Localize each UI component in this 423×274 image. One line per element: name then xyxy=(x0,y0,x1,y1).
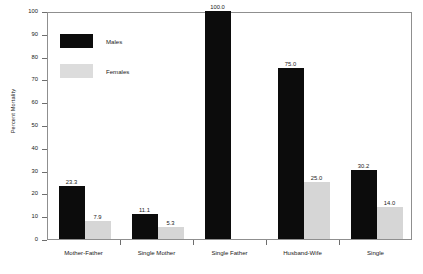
bar-females xyxy=(85,221,111,239)
y-axis-tick-label: 100 xyxy=(28,8,38,14)
bar-males xyxy=(278,68,304,239)
x-axis-category-label: Single xyxy=(339,249,412,256)
y-axis-tick-label: 50 xyxy=(32,122,38,128)
x-axis-tick-mark xyxy=(266,240,267,245)
bar-value-label: 11.1 xyxy=(126,207,164,213)
bar-females xyxy=(377,207,403,239)
legend-label: Males xyxy=(106,38,122,45)
bar-value-label: 23.3 xyxy=(53,179,91,185)
y-axis-tick-label: 60 xyxy=(32,99,38,105)
x-axis-category-label: Single Father xyxy=(193,249,266,256)
x-axis-tick-mark xyxy=(120,240,121,245)
x-axis-category-label: Single Mother xyxy=(120,249,193,256)
bar-males xyxy=(132,214,158,239)
y-axis-tick-label: 70 xyxy=(32,76,38,82)
bar-males xyxy=(59,186,85,239)
bar-value-label: 14.0 xyxy=(371,200,409,206)
bar-chart: Percent Mortality 0102030405060708090100… xyxy=(0,0,423,274)
bar-females xyxy=(158,227,184,239)
bar-value-label: 100.0 xyxy=(199,4,237,10)
y-axis-tick-label: 20 xyxy=(32,190,38,196)
x-axis-tick-mark xyxy=(339,240,340,245)
legend-swatch-males xyxy=(60,34,93,48)
legend-label: Females xyxy=(106,68,129,75)
bar-value-label: 25.0 xyxy=(298,175,336,181)
y-axis-title: Percent Mortality xyxy=(10,61,16,161)
y-axis-tick-label: 40 xyxy=(32,145,38,151)
bar-value-label: 75.0 xyxy=(272,61,310,67)
x-axis-category-label: Mother-Father xyxy=(47,249,120,256)
bar-males xyxy=(205,11,231,239)
y-axis-tick-label: 90 xyxy=(32,31,38,37)
bar-value-label: 5.3 xyxy=(152,220,190,226)
y-axis-tick-label: 30 xyxy=(32,168,38,174)
y-axis-tick-label: 10 xyxy=(32,213,38,219)
y-axis-tick-label: 80 xyxy=(32,54,38,60)
bar-value-label: 7.9 xyxy=(79,214,117,220)
y-axis-tick-mark xyxy=(42,240,47,241)
bar-females xyxy=(304,182,330,239)
x-axis-category-label: Husband-Wife xyxy=(266,249,339,256)
legend-swatch-females xyxy=(60,64,93,78)
y-axis-tick-label: 0 xyxy=(35,236,38,242)
bar-value-label: 30.2 xyxy=(345,163,383,169)
plot-area: 23.37.911.15.3100.075.025.030.214.0 xyxy=(47,12,412,240)
x-axis-tick-mark xyxy=(193,240,194,245)
